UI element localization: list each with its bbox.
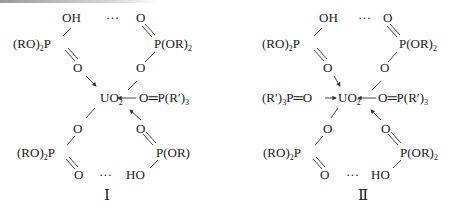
bond-lines — [0, 0, 461, 213]
